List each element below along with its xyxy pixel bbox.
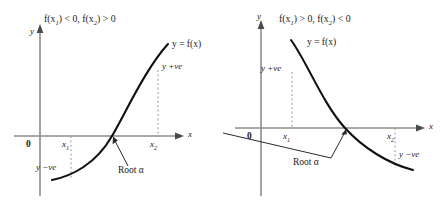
panel-title-right: f(x1) > 0, f(x2) < 0 [279, 14, 351, 27]
root-pointer-line-2 [331, 133, 345, 158]
root-label: Root α [293, 158, 319, 168]
graph-panel-right: f(x1) > 0, f(x2) < 0 y x 0 x1 x2 y = f(x… [223, 0, 446, 204]
curve-label: y = f(x) [172, 40, 201, 50]
graph-canvas-right [223, 0, 446, 204]
root-pointer-arrowhead [113, 137, 118, 145]
panel-title-left: f(x1) < 0, f(x2) > 0 [44, 14, 116, 27]
tick-label-x1: x1 [62, 140, 69, 151]
graph-panel-left: f(x1) < 0, f(x2) > 0 y x 0 x1 x2 y = f(x… [0, 0, 223, 204]
x-axis-arrowhead [416, 125, 425, 132]
x-axis-label: x [429, 122, 433, 131]
x-axis-arrowhead [175, 133, 184, 140]
y-axis-label: y [30, 27, 34, 36]
negative-region-label: y −ve [36, 163, 56, 172]
y-axis-label: y [257, 12, 261, 21]
y-axis-arrowhead [37, 24, 44, 33]
root-pointer-line [115, 140, 129, 166]
tick-label-x1: x1 [283, 132, 290, 143]
tick-label-x2: x2 [387, 132, 394, 143]
root-pointer-arrowhead [341, 129, 347, 135]
negative-region-label: y −ve [399, 150, 419, 159]
positive-region-label: y +ve [162, 62, 182, 71]
x-axis-label: x [188, 130, 192, 139]
positive-region-label: y +ve [261, 64, 281, 73]
y-axis-arrowhead [258, 20, 265, 29]
tick-label-x2: x2 [150, 140, 157, 151]
curve-label: y = f(x) [307, 38, 336, 48]
origin-label: 0 [26, 140, 31, 150]
root-label: Root α [118, 166, 144, 176]
figure-root: f(x1) < 0, f(x2) > 0 y x 0 x1 x2 y = f(x… [0, 0, 446, 204]
origin-label: 0 [247, 132, 252, 142]
root-pointer-line [223, 133, 331, 158]
function-curve [52, 44, 168, 180]
